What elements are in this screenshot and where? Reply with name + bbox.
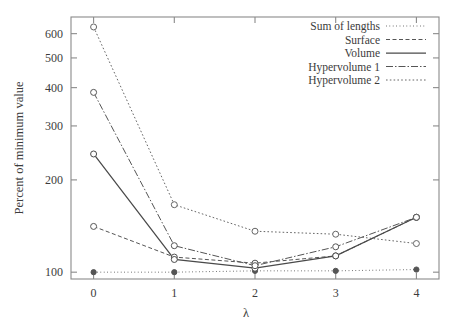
- chart-figure: 100200300400500600 01234 Sum of lengthsS…: [0, 0, 452, 327]
- series-marker: [171, 243, 177, 249]
- series-marker: [91, 89, 97, 95]
- y-tick-label: 400: [45, 81, 63, 95]
- series-marker: [414, 267, 419, 272]
- x-tick-label: 3: [333, 286, 339, 300]
- series-marker: [91, 24, 97, 30]
- x-axis-title: λ: [243, 306, 249, 320]
- legend-label-2: Surface: [345, 34, 380, 46]
- series-marker: [413, 241, 419, 247]
- series-marker: [333, 244, 339, 250]
- x-tick-label: 0: [91, 286, 97, 300]
- series-marker: [91, 151, 97, 157]
- legend-label-3: Volume: [344, 47, 380, 59]
- legend-label-1: Sum of lengths: [310, 20, 380, 33]
- y-tick-label: 100: [45, 265, 63, 279]
- line-chart: 100200300400500600 01234 Sum of lengthsS…: [0, 0, 452, 327]
- series-marker: [171, 202, 177, 208]
- series-marker: [91, 270, 96, 275]
- series-marker: [91, 223, 97, 229]
- chart-legend: Sum of lengthsSurfaceVolumeHypervolume 1…: [308, 20, 426, 87]
- y-tick-label: 600: [45, 27, 63, 41]
- y-axis-title: Percent of minimum value: [12, 81, 26, 214]
- series-marker: [172, 270, 177, 275]
- series-line: [94, 27, 417, 244]
- series-marker: [413, 214, 419, 220]
- series-marker: [333, 231, 339, 237]
- series-marker: [333, 268, 338, 273]
- series-marker: [171, 256, 177, 262]
- y-tick-label: 200: [45, 173, 63, 187]
- series-marker: [333, 253, 339, 259]
- series-marker: [252, 263, 258, 269]
- y-tick-label: 300: [45, 119, 63, 133]
- x-tick-label: 2: [252, 286, 258, 300]
- series-line: [94, 92, 417, 265]
- series-marker: [252, 228, 258, 234]
- x-axis-ticks: 01234: [91, 17, 420, 300]
- y-tick-label: 500: [45, 51, 63, 65]
- x-tick-label: 4: [413, 286, 419, 300]
- legend-label-4: Hypervolume 1: [308, 61, 380, 74]
- plot-frame: [71, 17, 439, 279]
- legend-label-5: Hypervolume 2: [308, 74, 380, 87]
- x-tick-label: 1: [171, 286, 177, 300]
- series-line: [94, 154, 417, 268]
